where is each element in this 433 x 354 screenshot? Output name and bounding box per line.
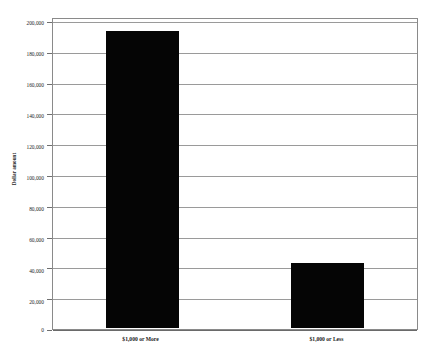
bar-chart-figure: Dollar amount 200,000 180,000 160,000 14… <box>0 0 433 354</box>
y-tick-mark-0 <box>47 330 52 331</box>
y-tick-label-0: 0 <box>0 327 44 333</box>
plot-area <box>52 18 418 330</box>
y-tick-label-140000: 140,000 <box>0 113 44 119</box>
x-category-label-1000-or-more: $1,000 or More <box>75 336 206 343</box>
y-axis-title: Dollar amount <box>11 129 17 209</box>
x-category-label-1000-or-less: $1,000 or Less <box>261 336 392 343</box>
y-tick-label-40000: 40,000 <box>0 268 44 274</box>
y-tick-label-100000: 100,000 <box>0 175 44 181</box>
bar-1000-or-more <box>106 31 179 328</box>
y-tick-label-80000: 80,000 <box>0 206 44 212</box>
bar-1000-or-less <box>291 263 364 328</box>
y-tick-label-20000: 20,000 <box>0 299 44 305</box>
gridline-baseline-0 <box>53 330 417 331</box>
y-tick-label-120000: 120,000 <box>0 144 44 150</box>
y-tick-label-160000: 160,000 <box>0 82 44 88</box>
y-tick-label-200000: 200,000 <box>0 20 44 26</box>
y-tick-label-180000: 180,000 <box>0 51 44 57</box>
gridline-200000 <box>53 22 417 23</box>
y-tick-label-60000: 60,000 <box>0 237 44 243</box>
